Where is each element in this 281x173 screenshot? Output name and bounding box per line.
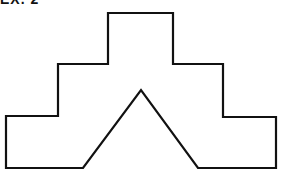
stepped-pyramid-figure <box>0 0 281 173</box>
pyramid-outline <box>6 13 276 168</box>
